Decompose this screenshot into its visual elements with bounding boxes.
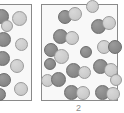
right-box-light-particle — [65, 31, 79, 45]
box-right-caption: 2 — [76, 104, 81, 113]
right-box-dark-particle — [44, 58, 56, 70]
right-box-light-particle — [76, 86, 90, 100]
right-box-light-particle — [54, 49, 69, 64]
right-box-light-particle — [68, 7, 82, 21]
right-box-dark-particle — [51, 72, 66, 87]
particle-diagram-figure: 2 — [0, 0, 124, 113]
left-box-light-particle — [12, 11, 27, 26]
left-box-light-particle — [1, 20, 13, 32]
right-box-light-particle — [106, 87, 120, 101]
right-box-light-particle — [78, 66, 91, 79]
right-box-dark-particle — [108, 40, 122, 54]
left-box-light-particle — [15, 38, 28, 51]
right-box-light-particle — [102, 16, 116, 30]
right-box-light-particle — [110, 74, 122, 86]
right-box-light-particle — [86, 0, 99, 13]
left-box-light-particle — [14, 82, 28, 96]
left-box-light-particle — [10, 59, 24, 73]
right-box-dark-particle — [80, 46, 92, 58]
